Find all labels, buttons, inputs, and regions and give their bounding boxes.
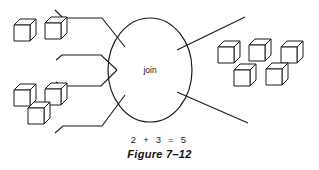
cube-front-face [249,45,265,61]
bottom-left-cube-group [14,83,67,124]
cube-front-face [14,25,30,41]
cube-front-face [28,108,44,124]
right-cube-group-cube-3 [234,64,256,86]
cube-front-face [14,90,30,106]
top-left-cube-group-cube-0 [14,19,36,41]
bottom-output-connector [177,92,248,123]
right-cube-group-cube-0 [218,41,240,63]
equation-label: 2 + 3 = 5 [0,134,319,145]
figure-caption: Figure 7–12 [0,148,319,160]
right-cube-group-cube-2 [281,41,303,63]
right-cube-group-cube-4 [266,63,288,85]
cube-front-face [266,69,282,85]
top-left-cube-group [14,17,67,41]
cube-front-face [45,23,61,39]
join-label: join [142,65,157,75]
bottom-left-cube-group-cube-2 [28,102,50,124]
right-cube-group [218,39,303,86]
top-left-cube-group-cube-1 [45,17,67,39]
cube-front-face [281,47,297,63]
cube-front-face [218,47,234,63]
cube-front-face [234,70,250,86]
right-cube-group-cube-1 [249,39,271,61]
figure-container: join 2 + 3 = 5 Figure 7–12 [0,0,319,170]
